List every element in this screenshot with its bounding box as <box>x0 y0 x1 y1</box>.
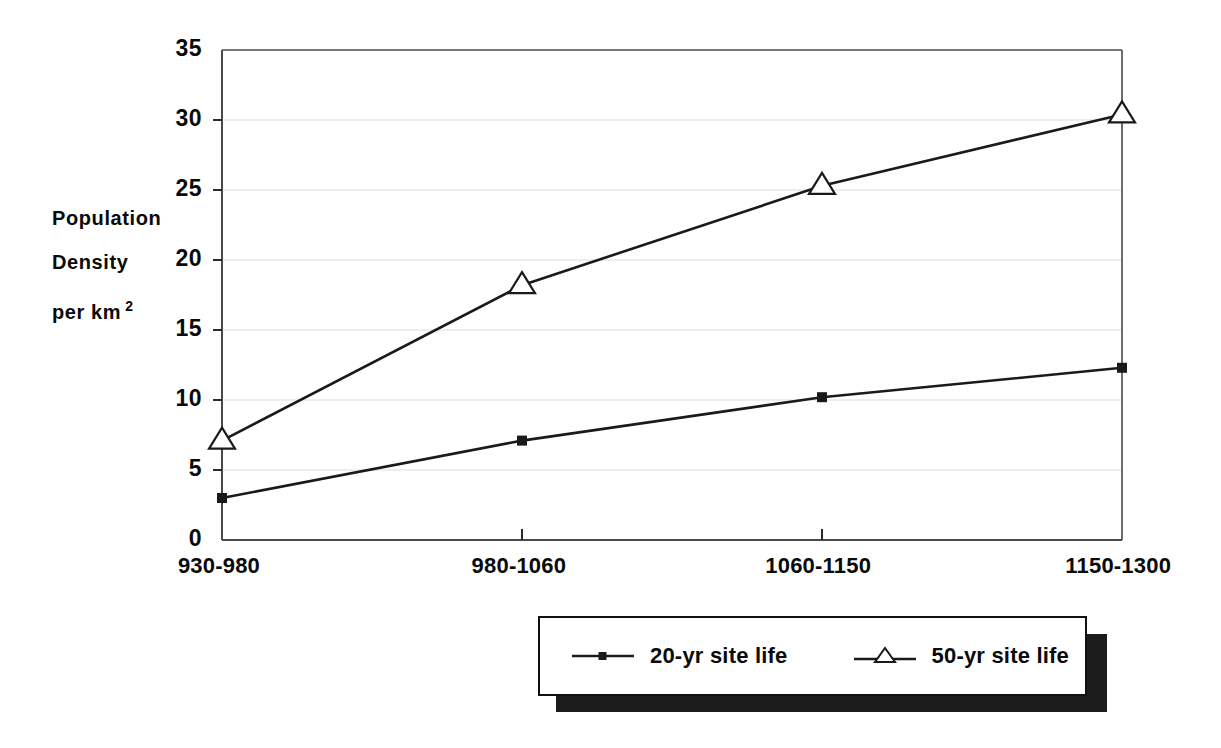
legend-label-50-yr: 50-yr site life <box>932 643 1070 669</box>
population-density-line-chart: Population Density per km2 0510152025303… <box>0 0 1221 748</box>
legend-entry-20-yr[interactable]: 20-yr site life <box>570 643 788 669</box>
legend-marker-filled-square-icon <box>570 645 636 667</box>
legend-label-20-yr: 20-yr site life <box>650 643 788 669</box>
axis-frame <box>222 50 1122 540</box>
gridlines <box>222 120 1122 470</box>
legend-marker-open-triangle-icon <box>852 644 918 668</box>
legend: 20-yr site life 50-yr site life <box>538 616 1087 696</box>
legend-entry-50-yr[interactable]: 50-yr site life <box>852 643 1070 669</box>
data-series-layer <box>209 101 1135 503</box>
